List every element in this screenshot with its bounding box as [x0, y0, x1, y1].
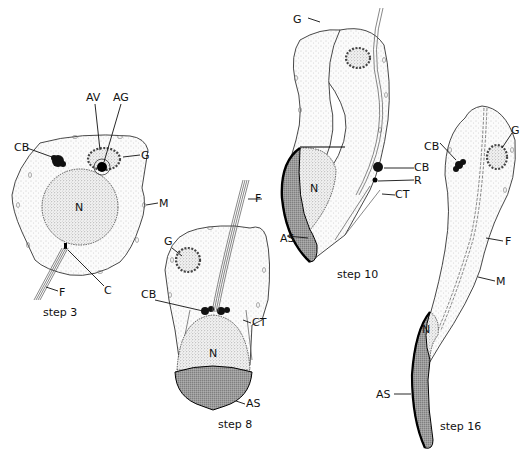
ring	[373, 178, 378, 183]
label-AG: AG	[113, 91, 129, 104]
label-G: G	[293, 13, 302, 26]
label-CB: CB	[414, 161, 429, 174]
caption-step-16: step 16	[440, 420, 481, 433]
caption-step-3: step 3	[43, 306, 77, 319]
label-N: N	[310, 182, 318, 195]
acrosome	[175, 366, 252, 410]
label-M: M	[496, 275, 506, 288]
label-CB: CB	[424, 140, 439, 153]
label-CT: CT	[395, 188, 410, 201]
centriole	[64, 243, 67, 249]
label-AS: AS	[376, 388, 391, 401]
label-CT: CT	[252, 316, 267, 329]
label-G: G	[141, 149, 150, 162]
golgi	[176, 248, 200, 272]
panel-step-3: CB AV AG G M N C F step 3	[12, 91, 169, 319]
panel-step-16: CB G F M N AS step 16	[376, 106, 520, 448]
label-CB: CB	[141, 288, 156, 301]
label-AS: AS	[246, 397, 261, 410]
label-N: N	[209, 347, 217, 360]
label-N: N	[422, 323, 430, 336]
acrosomal-granule	[97, 162, 107, 172]
label-CB: CB	[14, 141, 29, 154]
label-AS: AS	[280, 232, 295, 245]
label-F: F	[255, 192, 261, 205]
label-F: F	[505, 235, 511, 248]
label-G: G	[164, 235, 173, 248]
golgi	[487, 145, 507, 169]
label-N: N	[75, 201, 83, 214]
label-M: M	[159, 197, 169, 210]
caption-step-10: step 10	[337, 268, 378, 281]
panel-step-8: F G CB CT N AS step 8	[141, 180, 270, 431]
label-AV: AV	[86, 91, 101, 104]
spermiogenesis-diagram: CB AV AG G M N C F step 3	[0, 0, 529, 457]
caption-step-8: step 8	[218, 418, 252, 431]
label-G: G	[511, 124, 520, 137]
chromatoid-body	[373, 162, 383, 172]
label-R: R	[414, 174, 422, 187]
panel-step-10: G CB R CT N AS step 10	[280, 8, 429, 281]
golgi	[346, 48, 370, 68]
label-C: C	[104, 284, 112, 297]
label-F: F	[59, 286, 65, 299]
